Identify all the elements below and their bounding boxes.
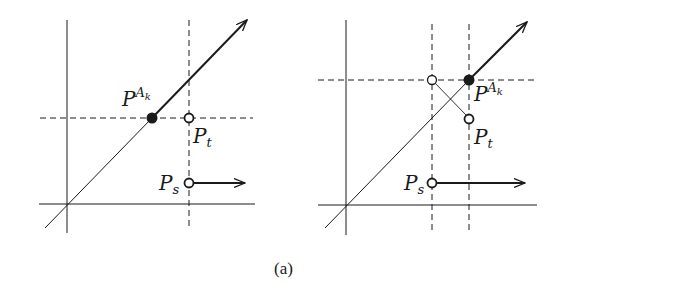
connector-line (433, 81, 467, 116)
label-ps: Ps (158, 171, 179, 197)
label-pt: Pt (473, 125, 493, 151)
label-pt: Pt (192, 124, 212, 150)
figure-canvas: PAk Pt Ps PAk Pt Ps (a) (0, 0, 691, 293)
panel-right: PAk Pt Ps (318, 20, 537, 235)
point-pt-open (185, 114, 194, 123)
point-ps-open (185, 179, 194, 188)
label-p-ak: PAk (121, 85, 151, 111)
figure-caption: (a) (274, 259, 293, 278)
point-pt-open (465, 115, 474, 124)
point-p-ak-filled (464, 75, 475, 86)
label-p-ak: PAk (473, 80, 503, 106)
point-p-ak-filled (147, 113, 158, 124)
panel-left: PAk Pt Ps (39, 20, 255, 233)
diagonal-thin (45, 118, 152, 228)
label-ps: Ps (403, 171, 424, 197)
diagonal-arrow (152, 20, 247, 118)
point-ps-open (428, 179, 437, 188)
diagonal-thin (325, 80, 469, 228)
diagonal-arrow (469, 22, 527, 80)
point-prev-open (428, 76, 437, 85)
